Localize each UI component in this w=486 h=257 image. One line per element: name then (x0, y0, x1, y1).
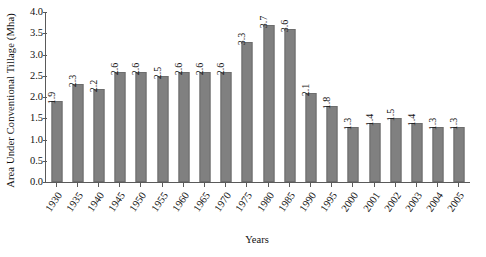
bar-slot: 1.4 (406, 12, 427, 182)
bar[interactable] (115, 72, 126, 183)
bar-slot: 2.6 (110, 12, 131, 182)
x-tick-label-text: 1945 (107, 191, 128, 214)
y-tick-label: 2.5 (19, 71, 43, 82)
bar-slot: 2.3 (67, 12, 88, 182)
x-tick-label-text: 1965 (192, 191, 213, 214)
bar-slot: 2.2 (88, 12, 109, 182)
x-tick-label-text: 1975 (234, 191, 255, 214)
bar-value-label: 2.6 (174, 62, 184, 75)
bar[interactable] (411, 123, 422, 183)
bar[interactable] (72, 84, 83, 182)
bar[interactable] (93, 89, 104, 183)
y-axis-title-text: Area Under Conventional Tillage (Mha) (5, 13, 16, 188)
bar[interactable] (51, 101, 62, 182)
bar-value-label: 3.3 (237, 33, 247, 46)
bar[interactable] (178, 72, 189, 183)
bar-value-label: 2.3 (68, 75, 78, 88)
bar-value-label: 2.6 (216, 62, 226, 75)
y-tickmark (43, 12, 47, 13)
bar-value-label: 1.8 (322, 96, 332, 109)
x-axis-title: Years (45, 234, 469, 245)
bar-slot: 2.6 (216, 12, 237, 182)
y-tickmark (43, 55, 47, 56)
bars-layer: 1.92.32.22.62.62.52.62.62.63.33.73.62.11… (46, 12, 470, 182)
x-tick-label-text: 1930 (43, 191, 64, 214)
bar-value-label: 1.4 (365, 113, 375, 126)
bar-slot: 3.3 (237, 12, 258, 182)
y-axis-tick-labels: 0.00.51.01.52.02.53.03.54.0 (19, 12, 43, 182)
bar-value-label: 2.6 (131, 62, 141, 75)
bar[interactable] (305, 93, 316, 182)
x-tick-label-text: 1950 (128, 191, 149, 214)
bar[interactable] (242, 42, 253, 182)
x-tick-label-text: 1995 (319, 191, 340, 214)
bar-value-label: 1.9 (47, 92, 57, 105)
bar[interactable] (157, 76, 168, 182)
y-tickmark (43, 118, 47, 119)
y-tickmark (43, 140, 47, 141)
x-tick-label-text: 2002 (383, 191, 404, 214)
bar-value-label: 2.6 (195, 62, 205, 75)
bar-slot: 2.6 (173, 12, 194, 182)
y-axis-title: Area Under Conventional Tillage (Mha) (0, 0, 20, 200)
bar-value-label: 1.3 (428, 118, 438, 131)
x-tick-label-text: 1990 (298, 191, 319, 214)
plot-area: 1.92.32.22.62.62.52.62.62.63.33.73.62.11… (45, 12, 470, 183)
x-tick-label-text: 1960 (171, 191, 192, 214)
bar-slot: 1.3 (343, 12, 364, 182)
bar[interactable] (327, 106, 338, 183)
bar-slot: 1.3 (428, 12, 449, 182)
bar-value-label: 1.4 (407, 113, 417, 126)
x-tick-label-text: 1940 (86, 191, 107, 214)
x-tick-label-text: 2003 (404, 191, 425, 214)
bar-value-label: 1.5 (386, 109, 396, 122)
x-tick-label-text: 2001 (361, 191, 382, 214)
bar-slot: 3.6 (279, 12, 300, 182)
x-tick-label-text: 2005 (446, 191, 467, 214)
y-tick-label: 0.5 (19, 156, 43, 167)
bar-slot: 2.6 (131, 12, 152, 182)
bar[interactable] (369, 123, 380, 183)
bar-slot: 2.6 (194, 12, 215, 182)
y-tick-label: 0.0 (19, 177, 43, 188)
bar[interactable] (433, 127, 444, 182)
bar[interactable] (199, 72, 210, 183)
x-tick-label-text: 1955 (149, 191, 170, 214)
bar[interactable] (454, 127, 465, 182)
x-axis-tick-labels: 1930193519401945195019551960196519701975… (45, 187, 469, 231)
bar-value-label: 3.6 (280, 20, 290, 33)
y-tickmark (43, 33, 47, 34)
x-tick-label-text: 2000 (340, 191, 361, 214)
x-tick-label-text: 1970 (213, 191, 234, 214)
bar-value-label: 2.6 (110, 62, 120, 75)
bar[interactable] (348, 127, 359, 182)
y-tick-label: 1.0 (19, 134, 43, 145)
bar[interactable] (390, 118, 401, 182)
bar-slot: 1.4 (364, 12, 385, 182)
x-tick-label-text: 1985 (277, 191, 298, 214)
bar-slot: 2.1 (300, 12, 321, 182)
bar[interactable] (136, 72, 147, 183)
bar-slot: 1.5 (385, 12, 406, 182)
bar-value-label: 1.3 (343, 118, 353, 131)
x-tick-label-text: 1980 (255, 191, 276, 214)
x-tick-label-text: 2004 (425, 191, 446, 214)
bar-value-label: 1.3 (449, 118, 459, 131)
bar-slot: 3.7 (258, 12, 279, 182)
y-tick-label: 2.0 (19, 92, 43, 103)
bar-slot: 1.3 (449, 12, 470, 182)
bar-value-label: 2.2 (89, 79, 99, 92)
x-tick-label-text: 1935 (65, 191, 86, 214)
bar[interactable] (263, 25, 274, 182)
bar[interactable] (284, 29, 295, 182)
bar-value-label: 2.1 (301, 84, 311, 97)
y-tick-label: 3.0 (19, 49, 43, 60)
y-tick-label: 4.0 (19, 7, 43, 18)
bar-slot: 2.5 (152, 12, 173, 182)
bar-slot: 1.9 (46, 12, 67, 182)
y-tick-label: 1.5 (19, 113, 43, 124)
bar-value-label: 3.7 (259, 16, 269, 29)
y-tick-label: 3.5 (19, 28, 43, 39)
y-tickmark (43, 161, 47, 162)
bar[interactable] (221, 72, 232, 183)
